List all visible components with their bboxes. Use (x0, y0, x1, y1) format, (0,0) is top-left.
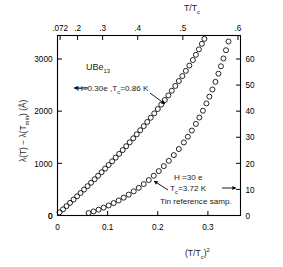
data-point (193, 52, 198, 57)
data-point (216, 71, 221, 76)
tick-label-right: 30 (246, 133, 256, 142)
tick-label-left-origin: 0 (48, 212, 53, 221)
data-point (146, 178, 151, 183)
data-point (166, 93, 171, 98)
data-point (181, 140, 186, 145)
tick-label-right: 20 (246, 160, 256, 169)
data-point (210, 87, 215, 92)
tick-label-left: 1000 (34, 160, 53, 169)
data-point (173, 83, 178, 88)
tick-label-bottom: 0.1 (102, 223, 114, 232)
tick-label-right: 50 (246, 81, 256, 90)
tick-label-top: .4 (134, 24, 141, 33)
tick-label-right: 40 (246, 107, 256, 116)
data-point (218, 64, 223, 69)
plot-annotations (74, 86, 236, 190)
data-point (166, 158, 171, 163)
axis-tick-labels: 00.10.20.3.072.2.3.4.5.60100020003000010… (34, 24, 255, 232)
data-point (190, 58, 195, 63)
data-point (187, 63, 192, 68)
tick-label-top: .3 (99, 24, 106, 33)
data-point (145, 119, 150, 124)
data-point (161, 164, 166, 169)
data-point (223, 48, 228, 53)
data-point (226, 39, 231, 44)
axis-ticks (58, 36, 241, 216)
tick-label-top: .5 (179, 24, 186, 33)
tick-label-right: 60 (246, 55, 256, 64)
data-point (136, 185, 141, 190)
arrow-ube-condition-left-head (74, 86, 78, 90)
series-1 (57, 36, 207, 214)
data-point (213, 79, 218, 84)
tick-label-top: .072 (52, 24, 68, 33)
data-point (151, 173, 156, 178)
data-point (141, 124, 146, 129)
data-point (96, 207, 101, 212)
data-point (207, 94, 212, 99)
data-point (171, 153, 176, 158)
tick-label-left: 2000 (34, 107, 53, 116)
data-point (193, 121, 198, 126)
data-point (131, 189, 136, 194)
data-point (116, 198, 121, 203)
data-point (91, 209, 96, 214)
data-point (148, 115, 153, 120)
data-point (106, 203, 111, 208)
plot-frame (58, 36, 241, 216)
tick-label-bottom: 0.3 (202, 223, 214, 232)
data-point (169, 88, 174, 93)
data-point (202, 36, 207, 41)
data-point (101, 205, 106, 210)
data-point (197, 115, 202, 120)
data-point (221, 56, 226, 61)
data-point (196, 47, 201, 52)
data-point (141, 182, 146, 187)
data-point (200, 108, 205, 113)
tick-label-top: .6 (235, 24, 242, 33)
data-point (156, 169, 161, 174)
tick-label-bottom: 0.2 (152, 223, 164, 232)
data-point (155, 107, 160, 112)
data-point (176, 147, 181, 152)
data-series (57, 36, 231, 215)
data-point (204, 101, 209, 106)
data-point (176, 79, 181, 84)
data-point (121, 195, 126, 200)
tick-label-bottom: 0 (55, 223, 60, 232)
data-point (183, 68, 188, 73)
data-point (180, 74, 185, 79)
series-2 (86, 39, 231, 216)
tick-label-top: .2 (74, 24, 81, 33)
tick-label-right: 10 (246, 186, 256, 195)
line-chart: 00.10.20.3.072.2.3.4.5.60100020003000010… (0, 0, 283, 267)
data-point (189, 128, 194, 133)
data-point (185, 134, 190, 139)
data-point (126, 192, 131, 197)
data-point (152, 111, 157, 116)
data-point (86, 211, 91, 216)
data-point (199, 41, 204, 46)
tick-label-left: 3000 (34, 55, 53, 64)
data-point (111, 201, 116, 206)
figure-container: 00.10.20.3.072.2.3.4.5.60100020003000010… (0, 0, 283, 267)
data-point (138, 128, 143, 133)
arrow-tin-right-head (232, 186, 236, 190)
tick-label-right: 0 (246, 212, 251, 221)
